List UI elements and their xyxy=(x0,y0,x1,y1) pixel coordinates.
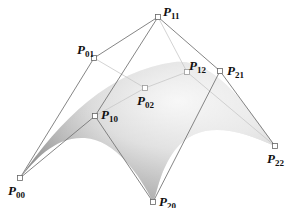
surface-patch xyxy=(20,62,275,202)
label-base: P xyxy=(8,183,16,198)
control-point-p21-marker xyxy=(218,69,223,74)
label-p12: P12 xyxy=(189,59,206,75)
label-p21: P21 xyxy=(227,64,244,80)
label-subscript: 21 xyxy=(235,70,244,80)
label-subscript: 10 xyxy=(109,114,118,124)
label-subscript: 22 xyxy=(275,158,284,168)
label-base: P xyxy=(227,63,235,78)
label-base: P xyxy=(101,107,109,122)
label-p20: P20 xyxy=(159,195,176,208)
label-p01: P01 xyxy=(77,43,94,59)
label-subscript: 20 xyxy=(167,201,176,208)
label-subscript: 12 xyxy=(197,65,206,75)
control-point-p00-marker xyxy=(18,176,23,181)
control-point-p22-marker xyxy=(273,144,278,149)
label-subscript: 11 xyxy=(171,11,180,21)
net-edge-p00-p10 xyxy=(20,116,95,178)
label-base: P xyxy=(267,151,275,166)
label-subscript: 02 xyxy=(145,100,154,110)
label-base: P xyxy=(77,42,85,57)
label-p02: P02 xyxy=(137,94,154,110)
label-base: P xyxy=(163,4,171,19)
label-p22: P22 xyxy=(267,152,284,168)
label-base: P xyxy=(137,93,145,108)
label-p00: P00 xyxy=(8,184,25,200)
control-point-p20-marker xyxy=(151,200,156,205)
label-subscript: 01 xyxy=(85,49,94,59)
surface-highlight xyxy=(20,62,275,202)
net-edge-p01-p11 xyxy=(94,17,158,58)
label-p10: P10 xyxy=(101,108,118,124)
control-point-p02-marker xyxy=(143,86,148,91)
label-p11: P11 xyxy=(163,5,179,21)
control-point-p10-marker xyxy=(93,114,98,119)
label-base: P xyxy=(189,58,197,73)
label-base: P xyxy=(159,194,167,208)
control-point-p11-marker xyxy=(156,15,161,20)
label-subscript: 00 xyxy=(16,190,25,200)
